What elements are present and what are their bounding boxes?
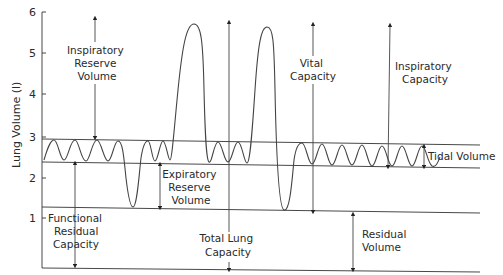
lung-volumes-diagram: 6 5 4 3 2 1 Lung Volume (l) [0,0,503,275]
y-tick-1: 1 [29,212,36,225]
y-tick-6: 6 [29,6,36,19]
y-axis-title: Lung Volume (l) [10,82,23,168]
ic-arrow [388,25,390,167]
y-axis: 6 5 4 3 2 1 Lung Volume (l) [10,6,46,268]
y-tick-4: 4 [29,88,36,101]
tidal-top-line [42,139,480,145]
y-tick-2: 2 [29,172,36,185]
frc-label: Functional Residual Capacity [48,212,105,250]
tv-label: Tidal Volume [427,150,495,162]
y-tick-5: 5 [29,47,36,60]
ic-label: Inspiratory Capacity [395,60,455,85]
y-tick-3: 3 [29,131,36,144]
erv-bottom-line [42,207,480,213]
baseline-line [42,268,480,272]
labels: Inspiratory Reserve Volume Functional Re… [48,44,495,258]
erv-label: Expiratory Reserve Volume [162,168,220,206]
rv-label: Residual Volume [362,228,410,253]
